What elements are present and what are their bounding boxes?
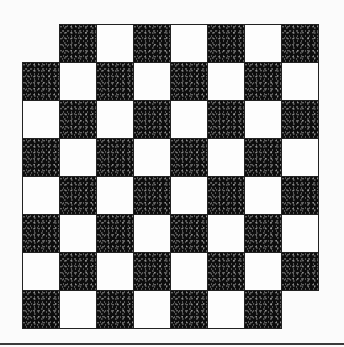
light-square (207, 290, 245, 329)
dark-square (59, 100, 97, 139)
dark-square (207, 100, 245, 139)
dark-square (59, 176, 97, 215)
dark-square (22, 62, 60, 101)
light-square (281, 62, 319, 101)
light-square (133, 138, 171, 177)
light-square (244, 24, 282, 63)
light-square (244, 176, 282, 215)
light-square (22, 252, 60, 291)
light-square (22, 100, 60, 139)
dark-square (22, 214, 60, 253)
light-square (133, 214, 171, 253)
dark-square (207, 24, 245, 63)
dark-square (244, 290, 282, 329)
dark-square (244, 138, 282, 177)
dark-square (133, 24, 171, 63)
dark-square (170, 290, 208, 329)
dark-square (96, 290, 134, 329)
light-square (170, 100, 208, 139)
light-square (170, 176, 208, 215)
dark-square (244, 214, 282, 253)
dark-square (281, 24, 319, 63)
light-square (207, 214, 245, 253)
light-square (96, 252, 134, 291)
light-square (207, 138, 245, 177)
dark-square (207, 176, 245, 215)
light-square (59, 138, 97, 177)
light-square (59, 214, 97, 253)
light-square (96, 24, 134, 63)
dark-square (59, 252, 97, 291)
light-square (244, 100, 282, 139)
dark-square (281, 176, 319, 215)
light-square (170, 252, 208, 291)
light-square (281, 138, 319, 177)
dark-square (22, 290, 60, 329)
light-square (59, 290, 97, 329)
dark-square (170, 214, 208, 253)
light-square (133, 290, 171, 329)
bottom-rule (0, 343, 344, 345)
dark-square (96, 138, 134, 177)
light-square (133, 62, 171, 101)
light-square (281, 214, 319, 253)
light-square (96, 176, 134, 215)
light-square (170, 24, 208, 63)
dark-square (133, 252, 171, 291)
dark-square (59, 24, 97, 63)
dark-square (133, 176, 171, 215)
dark-square (96, 62, 134, 101)
light-square (59, 62, 97, 101)
dark-square (133, 100, 171, 139)
light-square (22, 176, 60, 215)
light-square (244, 252, 282, 291)
light-square (96, 100, 134, 139)
dark-square (281, 100, 319, 139)
dark-square (244, 62, 282, 101)
dark-square (22, 138, 60, 177)
dark-square (281, 252, 319, 291)
dark-square (170, 62, 208, 101)
dark-square (207, 252, 245, 291)
dark-square (170, 138, 208, 177)
dark-square (96, 214, 134, 253)
light-square (207, 62, 245, 101)
mutilated-checkerboard (0, 0, 344, 347)
